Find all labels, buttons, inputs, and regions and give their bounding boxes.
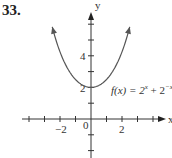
x-tick-label-neg2: −2 [55,123,67,135]
x-axis-arrow-icon [158,116,166,122]
function-label: f(x) = 2x + 2−x [111,83,172,97]
y-axis-arrow-icon [88,12,94,20]
y-axis-label: y [95,0,101,11]
y-tick-label-4: 4 [80,50,86,62]
x-tick-label-2: 2 [119,123,125,135]
x-axis-label: x [168,113,172,125]
x-tick-label-0: 0 [83,119,89,131]
function-graph: y x −2 0 2 2 4 f(x) = 2x + 2−x [0,0,172,158]
